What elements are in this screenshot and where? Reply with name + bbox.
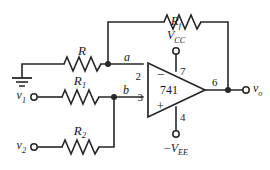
schematic-canvas	[0, 0, 270, 170]
terminal-v2	[31, 144, 37, 150]
resistor-r1-icon	[62, 90, 99, 104]
junction-node-a	[105, 61, 111, 67]
ground-icon	[12, 78, 32, 86]
label-node-b: b	[123, 84, 129, 96]
label-output-vo: vo	[253, 82, 262, 98]
terminal-vo	[243, 87, 249, 93]
label-input-resistor: R	[78, 44, 86, 57]
wire-node-a-to-feedback	[108, 22, 164, 64]
junction-node-b	[111, 94, 117, 100]
label-supply-vee: −VEE	[164, 142, 188, 158]
terminal-vee	[173, 131, 179, 137]
label-pin-4: 4	[180, 112, 186, 123]
wire-layer	[22, 22, 243, 147]
terminal-vcc	[173, 48, 179, 54]
label-node-a: a	[124, 51, 130, 63]
junction-output	[225, 87, 231, 93]
label-input-resistor-2: R2	[74, 124, 86, 140]
terminal-v1	[31, 94, 37, 100]
noninverting-input-sign: +	[157, 100, 164, 112]
label-source-v1: v1	[17, 89, 26, 105]
resistor-rf-icon	[164, 15, 201, 29]
label-pin-3: 3	[138, 92, 144, 103]
wire-ground-to-R	[22, 64, 64, 77]
opamp-part-number: 741	[160, 84, 178, 96]
label-pin-6: 6	[212, 77, 218, 88]
resistor-r2-icon	[62, 140, 99, 154]
circuit-diagram: Rf R R1 R2 v1 v2 vo VCC −VEE a b 2 3 7 4…	[0, 0, 270, 170]
label-pin-7: 7	[180, 66, 186, 77]
label-source-v2: v2	[17, 139, 26, 155]
label-input-resistor-1: R1	[74, 74, 86, 90]
wire-R2-to-node-b	[99, 97, 114, 147]
resistor-r-icon	[64, 57, 101, 71]
label-pin-2: 2	[136, 71, 142, 82]
label-supply-vcc: VCC	[167, 29, 185, 45]
inverting-input-sign: −	[157, 68, 164, 81]
